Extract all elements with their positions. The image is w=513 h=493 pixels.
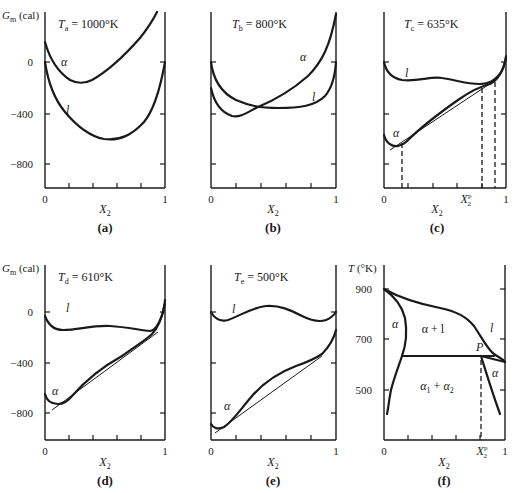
alpha-curve-c	[384, 58, 506, 146]
alpha-curve-e	[211, 330, 336, 428]
x-tick-0-e: 0	[208, 445, 214, 457]
panel-a: Gm (cal) 0 −400 −800 0 1 Ta = 1000°K α l…	[2, 9, 168, 235]
y-tick-800-a: −800	[10, 158, 33, 170]
liquid-curve-c	[384, 56, 506, 84]
panel-title-e: Te = 500°K	[234, 270, 289, 286]
y-tick-500-f: 500	[356, 384, 373, 396]
alpha-label-a: α	[61, 55, 68, 69]
x-tick-xp-f: Xp2	[476, 444, 488, 460]
x-tick-0-a: 0	[42, 193, 48, 205]
x-tick-0-f: 0	[381, 445, 387, 457]
panel-title-a: Ta = 1000°K	[58, 17, 119, 33]
caption-a: (a)	[97, 220, 112, 235]
y-tick-800-d: −800	[10, 407, 33, 419]
x-axis-label-b: X2	[266, 202, 278, 218]
x-axis-label-f: X2	[437, 455, 449, 471]
caption-c: (c)	[430, 220, 444, 235]
panel-e: 0 1 Te = 500°K l α X2 (e)	[208, 265, 339, 488]
liquid-curve-e	[211, 306, 336, 321]
x-tick-0-c: 0	[381, 193, 387, 205]
alpha1-plus-alpha2-region-f: α1 + α2	[420, 379, 453, 395]
alpha-region-left-f: α	[392, 317, 399, 331]
caption-b: (b)	[265, 220, 281, 235]
x-tick-1-a: 1	[162, 193, 168, 205]
alpha-label-c: α	[393, 126, 400, 140]
caption-f: (f)	[438, 473, 451, 488]
liquid-curve-b	[211, 62, 336, 108]
panel-title-c: Tc = 635°K	[404, 17, 459, 33]
solvus-left-f	[387, 356, 402, 414]
panel-c: 0 1 Xp2 Tc = 635°K l α X2 (c)	[381, 12, 509, 235]
liquid-label-c: l	[405, 66, 409, 80]
y-axis-label-f: T (°K)	[348, 262, 377, 275]
panel-title-d: Td = 610°K	[58, 270, 113, 286]
alpha-plus-liquid-region-f: α + l	[422, 322, 445, 336]
x-tick-xp-c: Xp2	[460, 192, 472, 208]
peritectic-point-label-f: P	[475, 340, 484, 354]
liquid-curve-d	[45, 300, 165, 331]
tangent-line-e	[215, 356, 322, 433]
liquid-label-a: l	[66, 103, 70, 117]
alpha-label-d: α	[52, 384, 59, 398]
y-tick-0-a: 0	[28, 56, 34, 68]
alpha-label-b: α	[300, 50, 307, 64]
alpha-curve-d	[45, 304, 165, 404]
alpha-region-right-f: α	[492, 366, 499, 380]
liquid-label-e: l	[232, 302, 236, 316]
liquidus-line-f	[384, 289, 505, 362]
panel-b: 0 1 Tb = 800°K α l X2 (b)	[208, 12, 339, 235]
panel-d: Gm (cal) 0 −400 −800 0 1 Td = 610°K l α …	[2, 262, 168, 488]
liquid-label-d: l	[66, 301, 70, 315]
tangent-line-c	[390, 83, 491, 150]
y-tick-0-d: 0	[28, 306, 34, 318]
panel-title-b: Tb = 800°K	[232, 17, 287, 33]
caption-d: (d)	[97, 473, 113, 488]
x-tick-1-b: 1	[333, 193, 339, 205]
y-tick-900-f: 900	[356, 283, 373, 295]
x-axis-label-e: X2	[266, 455, 278, 471]
tangent-line-d	[52, 332, 158, 410]
x-tick-1-c: 1	[503, 193, 509, 205]
x-tick-0-d: 0	[42, 445, 48, 457]
x-tick-0-b: 0	[208, 193, 214, 205]
y-tick-700-f: 700	[356, 333, 373, 345]
panel-f: T (°K) 900 700 500 0 1 Xp2 P α α + l l α…	[348, 262, 508, 488]
alpha-label-e: α	[224, 399, 231, 413]
y-axis-label-d: Gm (cal)	[2, 262, 39, 277]
x-axis-label-a: X2	[98, 202, 110, 218]
y-tick-400-d: −400	[10, 357, 33, 369]
gibbs-energy-figure: Gm (cal) 0 −400 −800 0 1 Ta = 1000°K α l…	[0, 0, 513, 493]
solvus-right-f	[481, 356, 500, 414]
x-tick-1-e: 1	[333, 445, 339, 457]
x-axis-label-c: X2	[430, 202, 442, 218]
y-tick-400-a: −400	[10, 108, 33, 120]
x-tick-1-d: 1	[162, 445, 168, 457]
x-tick-1-f: 1	[502, 445, 508, 457]
liquid-region-f: l	[490, 321, 494, 335]
caption-e: (e)	[266, 473, 280, 488]
x-axis-label-d: X2	[98, 455, 110, 471]
y-axis-label-a: Gm (cal)	[2, 9, 39, 24]
